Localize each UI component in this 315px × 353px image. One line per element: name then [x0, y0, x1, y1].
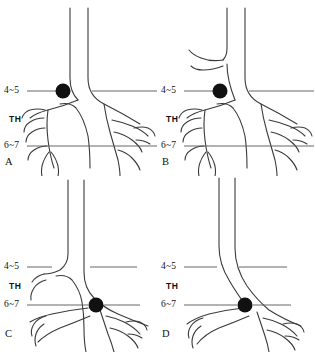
level-label-lower: 6~7 [161, 300, 176, 310]
panel-letter-b: B [162, 156, 169, 167]
panel-d-drawing [157, 176, 314, 352]
panel-b: 4~5 TH 6~7 B [157, 0, 314, 176]
panel-a: 4~5 TH 6~7 A [0, 0, 157, 176]
nodule-marker [56, 84, 71, 99]
level-label-upper: 4~5 [4, 86, 19, 96]
level-label-upper: 4~5 [161, 86, 176, 96]
panel-b-drawing [157, 0, 314, 176]
nodule-marker [238, 298, 253, 313]
level-label-middle: TH [166, 282, 178, 291]
panel-letter-c: C [5, 328, 12, 339]
nodule-marker [213, 84, 228, 99]
level-label-lower: 6~7 [161, 141, 176, 151]
level-label-upper: 4~5 [4, 262, 19, 272]
panel-d: 4~5 TH 6~7 D [157, 176, 314, 352]
level-label-lower: 6~7 [4, 300, 19, 310]
level-label-middle: TH [9, 282, 21, 291]
nodule-marker [89, 298, 104, 313]
panel-letter-a: A [5, 156, 13, 167]
panel-c-drawing [0, 176, 157, 352]
level-label-lower: 6~7 [4, 141, 19, 151]
level-label-upper: 4~5 [161, 262, 176, 272]
panel-a-drawing [0, 0, 157, 176]
figure-root: 4~5 TH 6~7 A [0, 0, 315, 353]
level-label-middle: TH [166, 115, 178, 124]
panel-letter-d: D [162, 328, 170, 339]
panel-c: 4~5 TH 6~7 C [0, 176, 157, 352]
level-label-middle: TH [9, 115, 21, 124]
